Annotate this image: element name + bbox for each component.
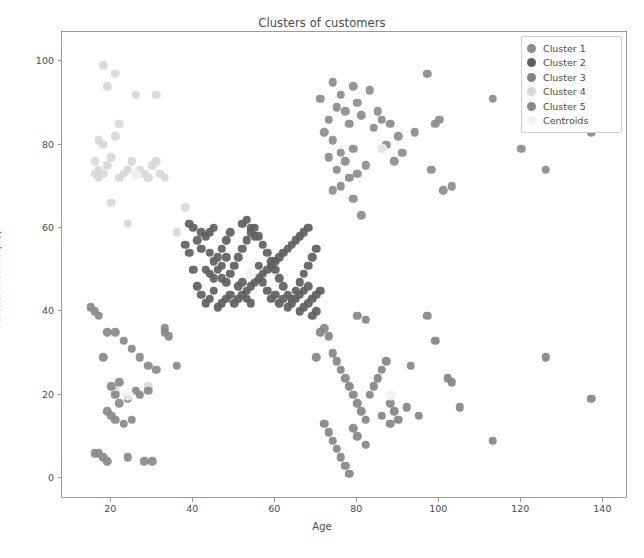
- data-point: [222, 236, 231, 245]
- legend-item-5[interactable]: Cluster 5: [527, 99, 616, 114]
- x-tick-mark: [192, 498, 193, 502]
- data-point: [123, 453, 132, 462]
- data-point: [337, 149, 346, 158]
- data-point: [267, 295, 276, 304]
- data-point: [111, 132, 120, 141]
- data-point: [386, 119, 395, 128]
- data-point: [382, 357, 391, 366]
- legend-label: Cluster 4: [543, 86, 586, 97]
- data-point: [431, 336, 440, 345]
- legend-swatch-icon: [527, 44, 536, 53]
- page-title: Clusters of customers: [0, 16, 644, 30]
- legend-item-4[interactable]: Cluster 4: [527, 85, 616, 100]
- data-point: [164, 332, 173, 341]
- data-point: [341, 157, 350, 166]
- data-point: [324, 153, 333, 162]
- data-point: [127, 157, 136, 166]
- data-point: [119, 336, 128, 345]
- data-point: [95, 174, 104, 183]
- data-point: [242, 215, 251, 224]
- data-point: [316, 328, 325, 337]
- data-point: [246, 224, 255, 233]
- centroid-marker: [385, 389, 396, 400]
- data-point: [127, 416, 136, 425]
- data-point: [324, 115, 333, 124]
- data-point: [312, 353, 321, 362]
- legend-label: Cluster 2: [543, 57, 586, 68]
- data-point: [275, 274, 284, 283]
- y-tick-label: 60: [14, 221, 54, 232]
- data-point: [226, 270, 235, 279]
- data-point: [337, 182, 346, 191]
- data-point: [222, 253, 231, 262]
- legend-item-3[interactable]: Cluster 3: [527, 70, 616, 85]
- data-point: [345, 382, 354, 391]
- x-axis-title: Age: [0, 521, 644, 532]
- data-point: [517, 145, 526, 154]
- data-point: [320, 420, 329, 429]
- data-point: [333, 357, 342, 366]
- data-point: [119, 420, 128, 429]
- data-point: [353, 432, 362, 441]
- data-point: [115, 119, 124, 128]
- data-point: [304, 282, 313, 291]
- data-point: [390, 157, 399, 166]
- legend-label: Cluster 1: [543, 43, 586, 54]
- legend-swatch-icon: [527, 73, 536, 82]
- y-tick-label: 80: [14, 138, 54, 149]
- data-point: [345, 119, 354, 128]
- data-point: [210, 286, 219, 295]
- data-point: [353, 399, 362, 408]
- data-point: [103, 457, 112, 466]
- data-point: [111, 391, 120, 400]
- data-point: [218, 245, 227, 254]
- data-point: [365, 391, 374, 400]
- data-point: [115, 174, 124, 183]
- legend-swatch-icon: [527, 102, 536, 111]
- data-point: [115, 378, 124, 387]
- data-point: [103, 82, 112, 91]
- legend-item-1[interactable]: Cluster 1: [527, 41, 616, 56]
- x-tick-label: 40: [169, 503, 215, 514]
- data-point: [357, 211, 366, 220]
- data-point: [210, 224, 219, 233]
- data-point: [328, 186, 337, 195]
- data-point: [259, 278, 268, 287]
- data-point: [394, 416, 403, 425]
- y-tick-label: 20: [14, 388, 54, 399]
- legend-item-2[interactable]: Cluster 2: [527, 56, 616, 71]
- x-tick-mark: [356, 498, 357, 502]
- data-point: [279, 282, 288, 291]
- data-point: [435, 115, 444, 124]
- data-point: [333, 445, 342, 454]
- x-tick-label: 60: [251, 503, 297, 514]
- data-point: [337, 90, 346, 99]
- data-point: [349, 424, 358, 433]
- legend-swatch-icon: [527, 87, 536, 96]
- data-point: [103, 161, 112, 170]
- x-tick-label: 20: [87, 503, 133, 514]
- data-point: [304, 224, 313, 233]
- legend-item-6[interactable]: Centroids: [527, 114, 616, 129]
- data-point: [218, 261, 227, 270]
- data-point: [205, 295, 214, 304]
- data-point: [99, 61, 108, 70]
- data-point: [415, 411, 424, 420]
- data-point: [365, 86, 374, 95]
- data-point: [378, 365, 387, 374]
- data-point: [361, 441, 370, 450]
- data-point: [193, 236, 202, 245]
- x-tick-mark: [520, 498, 521, 502]
- data-point: [152, 90, 161, 99]
- data-point: [259, 240, 268, 249]
- data-point: [185, 249, 194, 258]
- data-point: [127, 345, 136, 354]
- data-point: [160, 174, 169, 183]
- y-tick-label: 100: [14, 55, 54, 66]
- x-tick-label: 140: [579, 503, 625, 514]
- data-point: [189, 265, 198, 274]
- data-point: [230, 261, 239, 270]
- data-point: [439, 186, 448, 195]
- y-tick-label: 0: [14, 472, 54, 483]
- data-point: [386, 420, 395, 429]
